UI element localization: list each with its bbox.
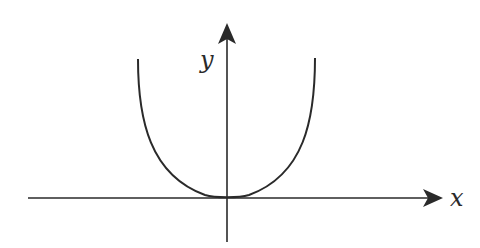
x-axis-label: x	[450, 184, 464, 212]
y-axis-label: y	[199, 46, 214, 74]
graph-figure: y x	[0, 0, 480, 248]
graph-svg: y x	[0, 0, 480, 248]
